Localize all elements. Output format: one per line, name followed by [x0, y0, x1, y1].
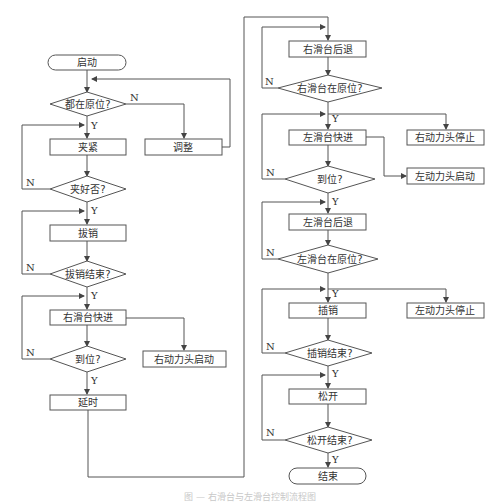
right-head-stop-box: 右动力头停止	[407, 130, 484, 145]
check-insert-done-label: 插销结束?	[307, 347, 352, 359]
decision-check-release-done: 松开结束?	[285, 427, 372, 453]
connector	[328, 289, 446, 302]
right-head-start-box: 右动力头启动	[143, 351, 226, 367]
no-label: N	[266, 427, 275, 438]
decision-check-in-place-right: 到位?	[285, 166, 375, 193]
pull-pin-label: 拔销	[78, 227, 98, 239]
end-terminal: 结束	[289, 468, 366, 484]
check-clamped-label: 夹好否?	[70, 183, 105, 195]
delay-label: 延时	[78, 397, 98, 408]
left-slide-back-label: 左滑台后退	[303, 216, 353, 228]
decision-check-clamped: 夹好否?	[50, 176, 126, 202]
decision-check-insert-done: 插销结束?	[285, 340, 372, 366]
left-slide-back-box: 左滑台后退	[289, 214, 366, 230]
clamp-label: 夹紧	[78, 141, 98, 153]
decision-check-right-home: 右滑台在原位?	[278, 75, 382, 102]
end-label: 结束	[318, 470, 338, 482]
adjust-box: 调整	[145, 139, 222, 155]
delay-box: 延时	[50, 395, 126, 410]
check-home-label: 都在原位?	[65, 98, 110, 110]
right-slide-fast-label: 右滑台快进	[63, 311, 113, 323]
check-pull-done-label: 拔销结束?	[65, 268, 110, 280]
no-label: N	[26, 262, 35, 273]
decision-check-pull-done: 拔销结束?	[50, 261, 126, 287]
left-head-start-label: 左动力头启动	[415, 170, 475, 182]
decision-check-home: 都在原位?	[50, 92, 126, 116]
yes-label: Y	[331, 113, 339, 124]
decision-check-left-home: 左滑台在原位?	[278, 245, 378, 273]
no-label: N	[26, 347, 35, 358]
yes-label: Y	[90, 120, 98, 131]
yes-label: Y	[90, 205, 98, 216]
check-in-place-label: 到位?	[317, 173, 342, 185]
connector-loop-back	[92, 79, 230, 147]
check-in-place-label: 到位?	[75, 353, 100, 365]
pull-pin-box: 拔销	[50, 225, 126, 241]
check-release-done-label: 松开结束?	[307, 434, 352, 446]
start-label: 启动	[77, 56, 97, 68]
insert-pin-box: 插销	[289, 303, 366, 318]
flowchart: 启动 都在原位? N 调整 Y 夹紧 夹好否? N Y 拔销 拔销结束? N	[0, 0, 499, 504]
connector	[366, 137, 406, 176]
no-label: N	[266, 341, 275, 352]
right-head-stop-label: 右动力头停止	[415, 131, 475, 143]
yes-label: Y	[331, 288, 339, 299]
decision-check-in-place-left: 到位?	[50, 346, 126, 372]
connector-no	[126, 104, 184, 138]
right-slide-fast-box: 右滑台快进	[50, 310, 126, 325]
figure-caption: 图 — 右滑台与左滑台控制流程图	[184, 491, 316, 502]
right-slide-back-box: 右滑台后退	[289, 41, 366, 57]
left-slide-fast-box: 左滑台快进	[289, 130, 366, 145]
right-head-start-label: 右动力头启动	[154, 353, 214, 365]
left-slide-fast-label: 左滑台快进	[303, 131, 353, 143]
left-head-stop-label: 左动力头停止	[415, 304, 475, 316]
check-left-home-label: 左滑台在原位?	[297, 253, 362, 265]
no-label: N	[265, 76, 274, 87]
yes-label: Y	[90, 290, 98, 301]
yes-label: Y	[331, 368, 339, 379]
no-label: N	[266, 167, 275, 178]
no-label: N	[26, 177, 35, 188]
release-box: 松开	[289, 389, 366, 404]
no-label: N	[266, 247, 275, 258]
connector	[328, 114, 446, 129]
yes-label: Y	[331, 454, 339, 465]
left-head-start-box: 左动力头启动	[407, 168, 484, 184]
clamp-box: 夹紧	[50, 139, 126, 155]
right-slide-back-label: 右滑台后退	[303, 43, 353, 55]
yes-label: Y	[90, 375, 98, 386]
insert-pin-label: 插销	[318, 304, 338, 316]
connector	[126, 318, 184, 350]
left-head-stop-box: 左动力头停止	[407, 303, 484, 318]
release-label: 松开	[318, 390, 338, 402]
yes-label: Y	[331, 196, 339, 207]
start-terminal: 启动	[48, 55, 126, 70]
adjust-label: 调整	[173, 141, 193, 153]
check-right-home-label: 右滑台在原位?	[297, 82, 362, 94]
no-label: N	[130, 92, 139, 103]
